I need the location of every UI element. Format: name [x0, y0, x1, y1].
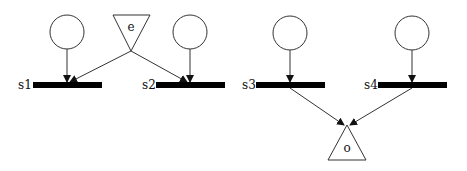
petri-net-diagram: eo s1s2s3s4	[0, 0, 467, 171]
triangle-label-e: e	[127, 20, 134, 34]
transition-bar-s4	[378, 82, 447, 88]
place-p2	[173, 15, 207, 49]
place-p1	[50, 15, 84, 49]
transition-label-s1: s1	[18, 78, 32, 92]
place-p3	[273, 16, 307, 50]
transition-label-s3: s3	[242, 78, 256, 92]
place-p4	[395, 16, 429, 50]
arc-e-to-s2	[131, 51, 187, 82]
transition-bar-s2	[156, 82, 225, 88]
transitions-layer: s1s2s3s4	[18, 78, 447, 92]
transition-label-s4: s4	[364, 78, 378, 92]
arcs-layer	[67, 49, 412, 125]
places-layer	[50, 15, 429, 50]
arc-s4-to-o	[350, 88, 412, 125]
transition-bar-s1	[33, 82, 102, 88]
diagram-canvas: eo s1s2s3s4	[0, 0, 467, 171]
arc-s3-to-o	[290, 88, 344, 125]
arc-e-to-s1	[70, 51, 131, 82]
transition-label-s2: s2	[142, 78, 156, 92]
triangle-label-o: o	[343, 141, 350, 155]
transition-bar-s3	[256, 82, 325, 88]
